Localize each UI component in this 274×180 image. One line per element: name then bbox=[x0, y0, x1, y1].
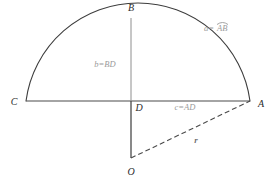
vertex-label-a: A bbox=[257, 98, 265, 109]
vertex-label-b: B bbox=[128, 2, 134, 13]
measure-label-a: a= AB bbox=[204, 23, 228, 34]
vertex-label-d: D bbox=[134, 102, 143, 113]
arc-cba bbox=[26, 3, 250, 101]
measure-a-text: a= bbox=[204, 23, 214, 33]
geometry-diagram: B C A D O a= AB b=BD c=AD r bbox=[0, 0, 274, 180]
measure-label-r: r bbox=[194, 135, 198, 145]
vertex-label-o: O bbox=[127, 166, 134, 177]
vertex-label-c: C bbox=[11, 96, 18, 107]
diagram-canvas: B C A D O a= AB b=BD c=AD r bbox=[0, 0, 274, 180]
measure-label-c: c=AD bbox=[175, 102, 197, 112]
measure-label-b: b=BD bbox=[94, 59, 116, 69]
